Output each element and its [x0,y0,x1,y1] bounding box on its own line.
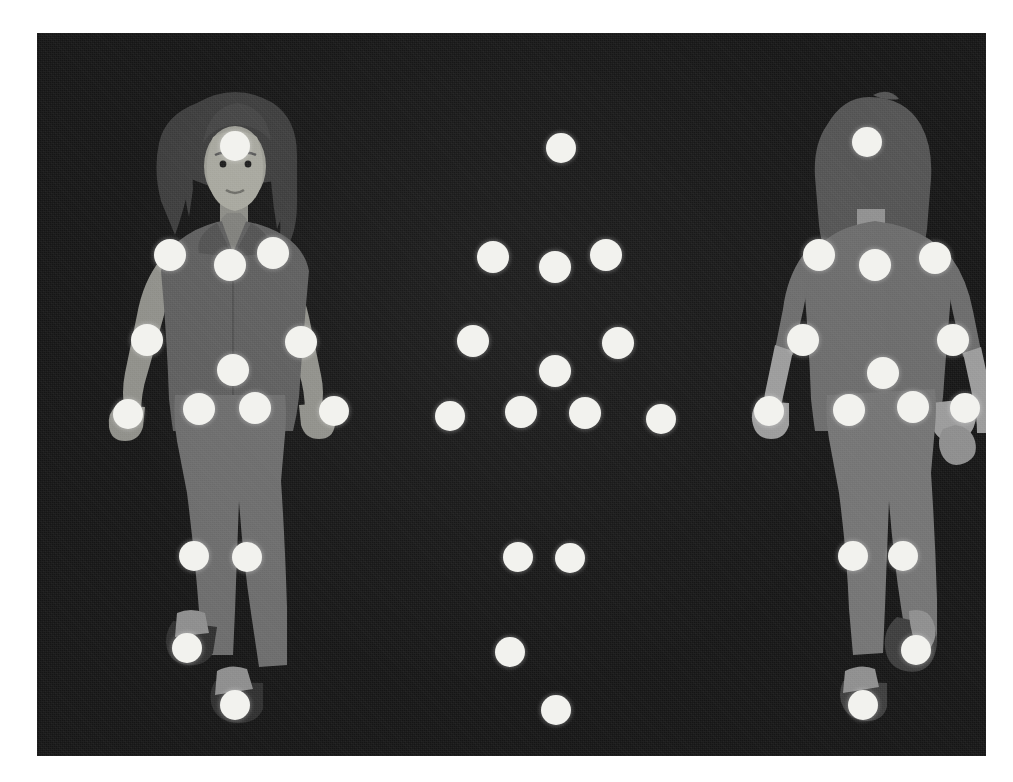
back-view-marker-right-ankle [901,635,931,665]
back-view-marker-left-hip [833,394,865,426]
back-view-marker-left-wrist [754,396,784,426]
back-view-marker-right-hip [897,391,929,423]
screenshot-root: Motion capture marker placement referenc… [0,0,1013,782]
back-view-marker-right-knee [888,541,918,571]
back-view-marker-left-knee [838,541,868,571]
back-view-markers [37,33,986,756]
back-view-marker-right-wrist [950,393,980,423]
back-view-marker-head [852,127,882,157]
back-view-marker-right-elbow [937,324,969,356]
back-view-marker-spine-lower [867,357,899,389]
back-view-marker-right-shoulder [919,242,951,274]
back-view-marker-left-elbow [787,324,819,356]
back-view-marker-left-ankle [848,690,878,720]
dark-canvas [37,33,986,756]
back-view-marker-left-shoulder [803,239,835,271]
back-view-marker-spine-upper [859,249,891,281]
